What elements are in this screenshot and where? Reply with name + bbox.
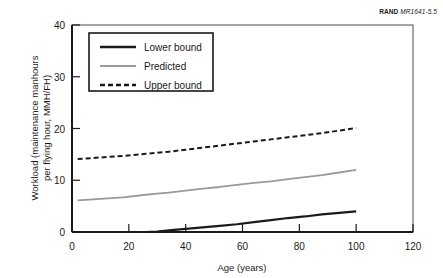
- x-axis-tick-labels: 020406080100120: [69, 241, 422, 252]
- x-tick-label: 80: [294, 241, 306, 252]
- x-tick-label: 40: [180, 241, 192, 252]
- y-tick-label: 20: [54, 124, 66, 135]
- x-tick-label: 20: [123, 241, 135, 252]
- x-tick-label: 60: [237, 241, 249, 252]
- rand-document-id: MR1641-5.5: [400, 8, 437, 15]
- y-tick-label: 0: [59, 227, 65, 238]
- y-tick-label: 30: [54, 72, 66, 83]
- rand-credit: RAND MR1641-5.5: [379, 9, 437, 16]
- figure-container: RAND MR1641-5.5 010203040 02040608010012…: [0, 0, 443, 278]
- x-axis-title: Age (years): [217, 262, 266, 273]
- y-tick-label: 10: [54, 175, 66, 186]
- x-tick-label: 100: [348, 241, 365, 252]
- rand-brand-label: RAND: [379, 8, 398, 15]
- legend-label-predicted: Predicted: [144, 61, 186, 72]
- chart-legend: Lower boundPredictedUpper bound: [89, 33, 213, 91]
- x-tick-label: 0: [69, 241, 75, 252]
- y-axis-tick-labels: 010203040: [54, 20, 66, 238]
- y-axis-title-line-1: Workload (maintenance manhours: [29, 55, 40, 200]
- line-chart: 010203040 020406080100120 Lower boundPre…: [0, 0, 443, 278]
- x-tick-label: 120: [405, 241, 422, 252]
- y-tick-label: 40: [54, 20, 66, 31]
- legend-label-lower-bound: Lower bound: [144, 42, 202, 53]
- legend-label-upper-bound: Upper bound: [144, 80, 202, 91]
- y-axis-title-line-2: per flying hour, MMH/FH): [41, 75, 52, 181]
